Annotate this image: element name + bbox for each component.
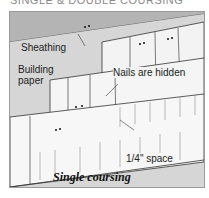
single-coursing-caption: Single coursing (53, 170, 131, 185)
building-paper-label-line1: Building (18, 64, 54, 75)
diagram-frame: Sheathing Building paper Nails are hidde… (9, 11, 205, 188)
nails-hidden-label: Nails are hidden (113, 67, 185, 78)
diagram-title: SINGLE & DOUBLE COURSING (10, 0, 183, 6)
building-paper-label-line2: paper (18, 75, 44, 86)
shingle-illustration (10, 12, 204, 187)
quarter-inch-space-label: 1/4" space (126, 153, 173, 164)
sheathing-label: Sheathing (21, 42, 66, 53)
